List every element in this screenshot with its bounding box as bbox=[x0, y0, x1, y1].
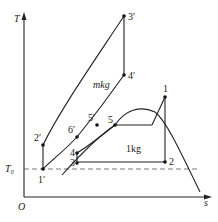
lower-cycle-label: 1kg bbox=[126, 143, 141, 154]
point-6p bbox=[75, 135, 79, 139]
origin-label: O bbox=[18, 201, 25, 212]
upper-cycle-label: mkg bbox=[93, 79, 110, 90]
label-1p: 1′ bbox=[38, 174, 45, 185]
y-axis-label: T bbox=[14, 13, 21, 24]
point-1p bbox=[41, 167, 45, 171]
point-2 bbox=[163, 160, 167, 164]
point-4p bbox=[122, 73, 126, 77]
label-4p: 4′ bbox=[128, 70, 135, 81]
label-3: 3 bbox=[70, 157, 75, 168]
point-5 bbox=[113, 123, 117, 127]
point-3 bbox=[75, 161, 79, 165]
ts-diagram: T s O T₀ mkg 1kg 3′ 4′ 2′ 1′ 6′ 5′ 5 4 3… bbox=[0, 0, 218, 222]
label-6p: 6′ bbox=[68, 124, 75, 135]
label-1: 1 bbox=[163, 83, 168, 94]
point-2p bbox=[41, 143, 45, 147]
point-5p bbox=[95, 123, 99, 127]
y-axis-arrow-icon bbox=[22, 12, 27, 20]
label-5p: 5′ bbox=[88, 112, 95, 123]
label-2p: 2′ bbox=[34, 132, 41, 143]
label-5: 5 bbox=[108, 114, 113, 125]
upper-compression-curve bbox=[43, 16, 124, 145]
point-1 bbox=[163, 95, 167, 99]
point-3p bbox=[122, 14, 126, 18]
point-4 bbox=[75, 151, 79, 155]
t0-label: T₀ bbox=[5, 163, 15, 174]
label-3p: 3′ bbox=[128, 11, 135, 22]
x-axis-label: s bbox=[204, 197, 208, 208]
label-2: 2 bbox=[169, 156, 174, 167]
